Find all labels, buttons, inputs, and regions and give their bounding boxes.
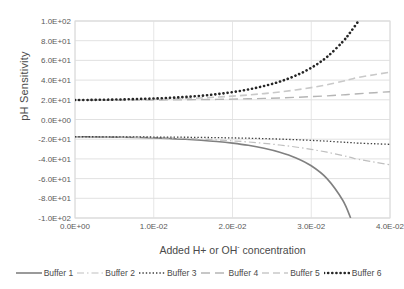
x-tick-label: 2.0E-02 xyxy=(218,222,246,231)
legend-swatch-5 xyxy=(262,269,288,277)
legend-item-5[interactable]: Buffer 5 xyxy=(260,268,322,278)
legend-label-5: Buffer 5 xyxy=(290,268,320,278)
y-tick-label: 0.0E+00 xyxy=(23,115,71,124)
y-tick-label: -4.0E+01 xyxy=(23,154,71,163)
legend-label-6: Buffer 6 xyxy=(352,268,382,278)
y-tick-labels: 1.0E+028.0E+016.0E+014.0E+012.0E+010.0E+… xyxy=(75,21,390,218)
legend-item-1[interactable]: Buffer 1 xyxy=(14,268,76,278)
x-axis-title-main: Added H+ or OH xyxy=(159,244,237,256)
y-tick-label: 1.0E+02 xyxy=(23,17,71,26)
legend-swatch-4 xyxy=(201,269,227,277)
x-axis-title-tail: concentration xyxy=(240,244,306,256)
legend-item-2[interactable]: Buffer 2 xyxy=(75,268,137,278)
chart-legend: Buffer 1Buffer 2Buffer 3Buffer 4Buffer 5… xyxy=(0,268,397,278)
legend-item-6[interactable]: Buffer 6 xyxy=(322,268,384,278)
y-tick-label: 6.0E+01 xyxy=(23,56,71,65)
plot-area: 1.0E+028.0E+016.0E+014.0E+012.0E+010.0E+… xyxy=(75,21,390,218)
legend-label-3: Buffer 3 xyxy=(167,268,197,278)
legend-swatch-6 xyxy=(324,269,350,277)
legend-label-4: Buffer 4 xyxy=(229,268,259,278)
y-tick-label: -2.0E+01 xyxy=(23,135,71,144)
legend-swatch-2 xyxy=(77,269,103,277)
x-tick-label: 0.0E+00 xyxy=(60,222,90,231)
y-tick-label: 2.0E+01 xyxy=(23,95,71,104)
x-tick-label: 3.0E-02 xyxy=(297,222,325,231)
y-tick-label: 4.0E+01 xyxy=(23,76,71,85)
legend-item-3[interactable]: Buffer 3 xyxy=(137,268,199,278)
x-tick-label: 1.0E-02 xyxy=(140,222,168,231)
legend-swatch-3 xyxy=(139,269,165,277)
x-tick-label: 4.0E-02 xyxy=(376,222,404,231)
x-axis-title: Added H+ or OH- concentration xyxy=(75,243,390,256)
legend-label-2: Buffer 2 xyxy=(105,268,135,278)
y-tick-label: -8.0E+01 xyxy=(23,194,71,203)
y-tick-label: -6.0E+01 xyxy=(23,174,71,183)
legend-label-1: Buffer 1 xyxy=(44,268,74,278)
y-tick-label: 8.0E+01 xyxy=(23,36,71,45)
legend-item-4[interactable]: Buffer 4 xyxy=(199,268,261,278)
legend-swatch-1 xyxy=(16,269,42,277)
